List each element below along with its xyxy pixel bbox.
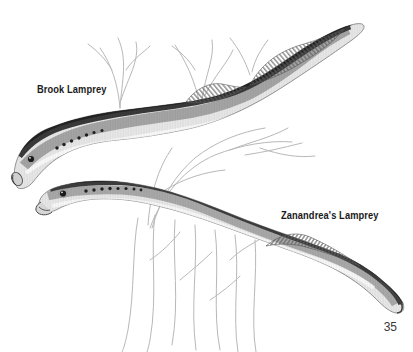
brook-lamprey-drawing <box>0 0 413 352</box>
brook-lamprey-label: Brook Lamprey <box>37 84 106 95</box>
zanandrea-lamprey-label: Zanandrea's Lamprey <box>281 210 379 221</box>
page-number: 35 <box>384 320 397 334</box>
book-page: Brook Lamprey Zanandrea's Lamprey 35 <box>0 0 413 352</box>
zanandrea-lamprey-drawing <box>0 0 413 352</box>
lamprey-figure <box>0 0 413 352</box>
